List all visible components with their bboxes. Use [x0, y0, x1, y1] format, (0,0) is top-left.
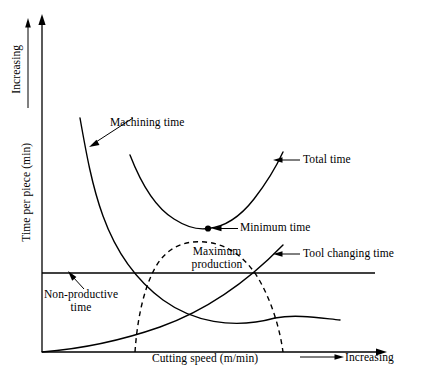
total-time-curve-left [130, 155, 208, 229]
x-axis-title: Cutting speed (m/min) [152, 352, 258, 365]
y-axis-increasing-label: Increasing [10, 29, 23, 109]
y-axis-title: Time per piece (min) [20, 132, 33, 252]
chart-figure: Time per piece (min) Increasing Cutting … [0, 0, 427, 380]
minimum-time-marker [205, 225, 211, 231]
non-productive-time-label-line2: time [71, 301, 92, 313]
total-time-curve-right [208, 152, 283, 229]
maximum-production-label-line2: production [192, 258, 243, 270]
total-time-label: Total time [303, 153, 351, 166]
non-productive-time-leader-arrow [68, 271, 84, 289]
x-axis-increasing-label: Increasing [345, 351, 394, 364]
maximum-production-label: Maximum production [178, 245, 256, 270]
machining-time-curve-tail [275, 316, 340, 320]
y-increasing-arrow [25, 18, 31, 108]
tool-changing-time-leader-arrow [273, 251, 300, 257]
non-productive-time-label-line1: Non-productive [44, 288, 118, 300]
total-time-leader-arrow [273, 157, 300, 163]
machining-time-label: Machining time [110, 116, 185, 129]
minimum-time-label: Minimum time [240, 221, 311, 234]
chart-canvas [0, 0, 427, 380]
non-productive-time-label: Non-productive time [38, 288, 124, 313]
y-axis-arrowhead [38, 14, 45, 25]
maximum-production-label-line1: Maximum [193, 245, 242, 257]
x-increasing-arrow [300, 354, 344, 360]
tool-changing-time-label: Tool changing time [303, 247, 394, 260]
